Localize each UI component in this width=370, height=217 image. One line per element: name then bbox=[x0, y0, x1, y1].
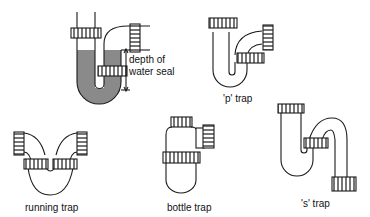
water-seal-label-line2: water seal bbox=[129, 66, 175, 77]
s-trap bbox=[278, 104, 356, 191]
traps-diagram bbox=[0, 0, 370, 217]
running-trap bbox=[14, 132, 87, 195]
bottle-trap bbox=[163, 117, 214, 193]
water-seal-label-line1: depth of bbox=[129, 54, 165, 65]
p-trap-label: 'p' trap bbox=[223, 93, 252, 104]
p-trap bbox=[209, 18, 273, 87]
running-trap-label: running trap bbox=[25, 202, 78, 213]
s-trap-label: 's' trap bbox=[301, 198, 330, 209]
bottle-trap-label: bottle trap bbox=[167, 202, 211, 213]
